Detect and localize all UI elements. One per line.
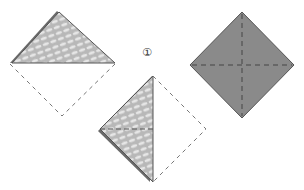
dashed-fold-outline [10, 64, 115, 116]
figure-triangle-up [10, 11, 115, 116]
origami-diagram [0, 0, 304, 190]
figure-square-diamond [190, 12, 294, 118]
step-number-marker: ① [140, 46, 154, 60]
figure-triangle-side [98, 76, 206, 182]
dashed-fold-outline [153, 76, 206, 182]
paper-front-flap [12, 12, 115, 63]
